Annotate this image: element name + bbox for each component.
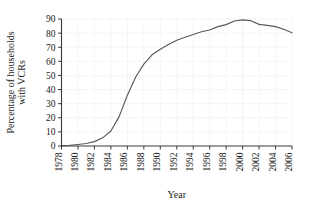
y-tick-label: 70	[46, 43, 56, 53]
y-tick-label: 60	[46, 57, 56, 67]
x-tick-label: 2002	[251, 152, 261, 171]
chart-figure: 1978198019821984198619881990199219941996…	[0, 0, 309, 206]
x-axis-title: Year	[168, 189, 187, 200]
x-tick-label: 1994	[185, 152, 195, 171]
x-tick-label: 1980	[70, 152, 80, 171]
y-tick-label: 0	[51, 141, 56, 151]
x-tick-label: 1982	[86, 152, 96, 171]
x-tick-label: 1986	[119, 152, 129, 171]
y-tick-label: 30	[46, 99, 56, 109]
y-axis-title-line: with VCRs	[16, 60, 27, 105]
y-tick-label: 90	[46, 14, 56, 24]
x-tick-label: 1990	[152, 152, 162, 171]
x-tick-label: 2004	[268, 152, 278, 171]
x-tick-label: 1992	[169, 152, 179, 171]
y-tick-label: 20	[46, 113, 56, 123]
y-tick-label: 40	[46, 85, 56, 95]
y-tick-label: 50	[46, 71, 56, 81]
y-tick-label: 10	[46, 127, 56, 137]
x-tick-label: 2000	[235, 152, 245, 171]
x-tick-label: 1988	[136, 152, 146, 171]
y-axis-title-line: Percentage of households	[5, 31, 16, 133]
vcr-household-line-chart: 1978198019821984198619881990199219941996…	[0, 0, 309, 206]
x-tick-label: 1996	[202, 152, 212, 171]
x-axis-tick-labels: 1978198019821984198619881990199219941996…	[54, 152, 295, 171]
y-tick-label: 80	[46, 29, 56, 39]
x-tick-label: 1978	[54, 152, 64, 171]
x-tick-label: 2006	[284, 152, 294, 171]
x-tick-label: 1998	[218, 152, 228, 171]
x-tick-label: 1984	[103, 152, 113, 171]
